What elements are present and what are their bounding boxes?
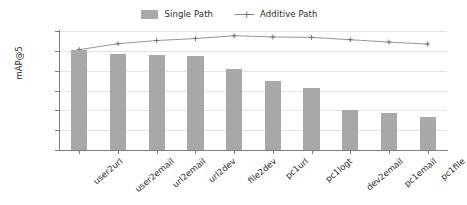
x-tick-label: pc1url	[283, 156, 310, 181]
plus-marker	[387, 40, 392, 45]
legend-label-single-path: Single Path	[164, 9, 213, 19]
y-tick-mark	[55, 31, 59, 32]
plus-marker	[154, 38, 159, 43]
line-plus-marker-icon: +	[235, 10, 254, 19]
plus-marker	[348, 37, 353, 42]
plus-marker	[116, 41, 121, 46]
y-axis-label: mAP@5	[14, 8, 24, 118]
y-tick-mark	[55, 71, 59, 72]
x-tick-mark	[389, 150, 390, 154]
x-tick-mark	[118, 150, 119, 154]
gridline	[60, 31, 447, 32]
bar-single-path	[381, 113, 397, 150]
x-tick-mark	[79, 150, 80, 154]
x-tick-label: pc1logt	[323, 156, 354, 184]
bar-single-path	[265, 81, 281, 150]
additive-path-line	[79, 36, 427, 50]
x-tick-label: pc1file	[438, 156, 466, 182]
x-tick-label: dev2email	[365, 156, 406, 192]
chart-legend: Single Path + Additive Path	[0, 6, 459, 22]
y-tick-mark	[55, 91, 59, 92]
bar-single-path	[110, 54, 126, 150]
x-tick-label: url2email	[170, 156, 207, 189]
legend-item-single-path: Single Path	[141, 9, 213, 19]
bar-single-path	[226, 69, 242, 150]
legend-item-additive-path: + Additive Path	[235, 9, 317, 19]
x-tick-label: url2dev	[207, 156, 238, 184]
bar-single-path	[71, 50, 87, 150]
x-tick-label: file2dev	[246, 156, 278, 186]
y-tick-mark	[55, 110, 59, 111]
x-tick-label: pc1email	[402, 156, 438, 189]
bar-single-path	[420, 117, 436, 150]
x-tick-label: user2email	[133, 156, 176, 194]
x-tick-mark	[157, 150, 158, 154]
x-tick-mark	[350, 150, 351, 154]
y-tick-mark	[55, 150, 59, 151]
plus-marker	[193, 36, 198, 41]
y-tick-mark	[55, 51, 59, 52]
x-tick-mark	[428, 150, 429, 154]
plus-marker	[425, 42, 430, 47]
plus-marker	[232, 33, 237, 38]
x-tick-label: user2url	[92, 156, 125, 186]
bar-single-path	[303, 88, 319, 150]
plus-marker	[309, 35, 314, 40]
x-tick-mark	[195, 150, 196, 154]
x-tick-mark	[234, 150, 235, 154]
bar-single-path	[187, 56, 203, 150]
y-tick-mark	[55, 130, 59, 131]
bar-swatch-icon	[141, 10, 158, 19]
plot-area	[60, 31, 447, 150]
legend-label-additive-path: Additive Path	[260, 9, 317, 19]
plus-marker	[270, 35, 275, 40]
bar-single-path	[149, 55, 165, 150]
bar-single-path	[342, 110, 358, 150]
x-tick-mark	[273, 150, 274, 154]
gridline	[60, 51, 447, 52]
x-tick-mark	[312, 150, 313, 154]
